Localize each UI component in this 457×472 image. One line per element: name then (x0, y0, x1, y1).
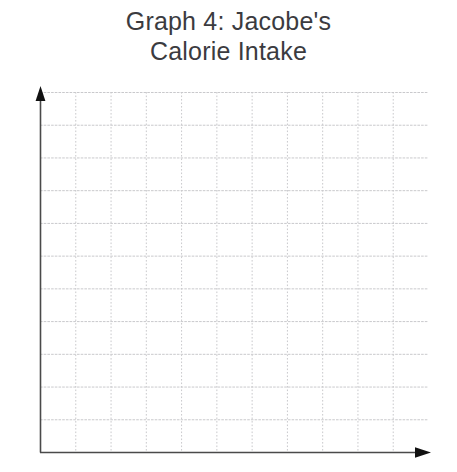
page-title-line-1: Graph 4: Jacobe's (0, 6, 457, 36)
grid-lines (40, 92, 428, 452)
plot-area (40, 92, 428, 452)
grid-horizontal-lines (40, 93, 428, 453)
page-title-line-2: Calorie Intake (0, 36, 457, 66)
grid-vertical-lines (41, 92, 429, 452)
graph-worksheet: Graph 4: Jacobe's Calorie Intake (0, 0, 457, 472)
page-title: Graph 4: Jacobe's Calorie Intake (0, 6, 457, 66)
